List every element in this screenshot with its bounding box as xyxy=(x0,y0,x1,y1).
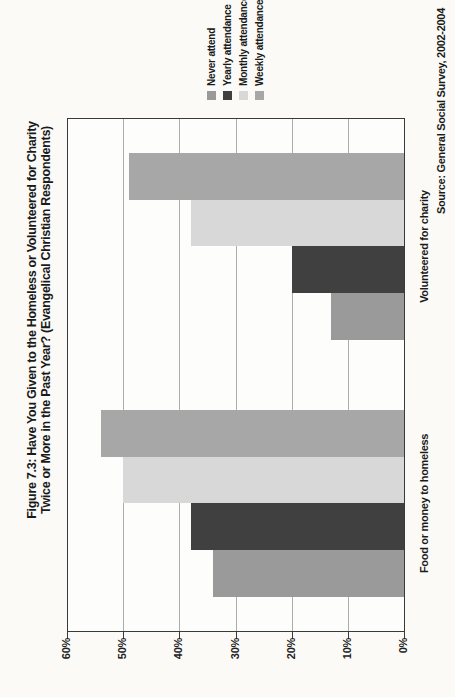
legend-label: Weekly attendance xyxy=(254,0,265,86)
bar-monthly-attendance-cat1 xyxy=(191,200,404,247)
y-axis-tick-label: 50% xyxy=(116,638,128,670)
bar-never-attend-cat1 xyxy=(331,293,404,340)
legend-swatch-icon xyxy=(255,91,264,100)
y-axis-tick-label: 60% xyxy=(60,638,72,670)
legend-label: Monthly attendance xyxy=(238,0,249,86)
legend-row: Monthly attendance xyxy=(235,0,251,100)
bar-monthly-attendance-cat0 xyxy=(123,457,404,504)
legend-row: Never attend xyxy=(203,0,219,100)
source-note: Source: General Social Survey, 2002-2004 xyxy=(435,8,447,632)
figure-title-line1: Figure 7.3: Have You Given to the Homele… xyxy=(25,8,39,632)
y-axis-tick-label: 40% xyxy=(172,638,184,670)
y-axis-tick-label: 20% xyxy=(285,638,297,670)
legend-row: Weekly attendance xyxy=(251,0,267,100)
legend-row: Yearly attendance xyxy=(219,0,235,100)
category-label-1: Volunteered for charity xyxy=(418,118,430,375)
bar-yearly-attendance-cat0 xyxy=(191,504,404,551)
bar-weekly-attendance-cat1 xyxy=(129,153,404,200)
y-axis-tick-label: 0% xyxy=(397,638,409,670)
legend-swatch-icon xyxy=(239,91,248,100)
y-axis-tick-label: 10% xyxy=(341,638,353,670)
legend-label: Never attend xyxy=(206,28,217,86)
y-axis-tick-label: 30% xyxy=(229,638,241,670)
bar-yearly-attendance-cat1 xyxy=(292,247,404,294)
gridline-50% xyxy=(123,119,124,631)
figure-title-line2: Twice or More in the Past Year? (Evangel… xyxy=(39,8,53,632)
category-label-0: Food or money to homeless xyxy=(418,375,430,632)
figure-title: Figure 7.3: Have You Given to the Homele… xyxy=(25,8,53,632)
legend-swatch-icon xyxy=(223,91,232,100)
legend-swatch-icon xyxy=(207,91,216,100)
bar-weekly-attendance-cat0 xyxy=(101,410,404,457)
scanned-page: Figure 7.3: Have You Given to the Homele… xyxy=(0,0,455,697)
rotated-chart-canvas: Figure 7.3: Have You Given to the Homele… xyxy=(0,0,455,697)
legend-label: Yearly attendance xyxy=(222,4,233,86)
legend: Never attendYearly attendanceMonthly att… xyxy=(203,0,267,100)
bar-never-attend-cat0 xyxy=(213,550,404,597)
